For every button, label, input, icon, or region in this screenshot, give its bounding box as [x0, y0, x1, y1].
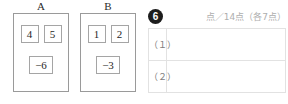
panel-a-top-tile-row: 4 5: [14, 25, 68, 43]
panel-b-bottom-tile-row: −3: [81, 56, 135, 74]
answer-table: （１） （２）: [148, 28, 286, 93]
score-allocation-label: 点／14点（各7点）: [206, 10, 286, 24]
panel-label-a: A: [13, 0, 69, 13]
panel-b-tile-3: −3: [96, 56, 120, 74]
panel-a: 4 5 −6: [13, 13, 69, 92]
panel-label-b: B: [80, 0, 136, 13]
panel-b-tile-2: 2: [111, 25, 129, 43]
worksheet-root: A 4 5 −6 B 1 2 −3 6 点／14点（各7点）: [0, 0, 288, 104]
question-number-badge: 6: [148, 9, 163, 24]
panel-a-tile-3: −6: [29, 56, 53, 74]
answer-row-label-2: （２）: [149, 61, 167, 93]
answer-row-label-1: （１）: [149, 29, 167, 61]
score-area: 6 点／14点（各7点） （１） （２）: [148, 0, 288, 104]
answer-input-cell-2[interactable]: [167, 61, 286, 93]
panel-a-tile-2: 5: [44, 25, 62, 43]
panel-b-tile-1: 1: [88, 25, 106, 43]
panel-a-bottom-tile-row: −6: [14, 56, 68, 74]
figure-area: A 4 5 −6 B 1 2 −3: [0, 0, 144, 104]
panel-a-tile-1: 4: [21, 25, 39, 43]
panel-b-top-tile-row: 1 2: [81, 25, 135, 43]
panel-b: 1 2 −3: [80, 13, 136, 92]
table-row: （１）: [149, 29, 286, 61]
answer-input-cell-1[interactable]: [167, 29, 286, 61]
table-row: （２）: [149, 61, 286, 93]
score-header: 6 点／14点（各7点）: [148, 9, 288, 26]
